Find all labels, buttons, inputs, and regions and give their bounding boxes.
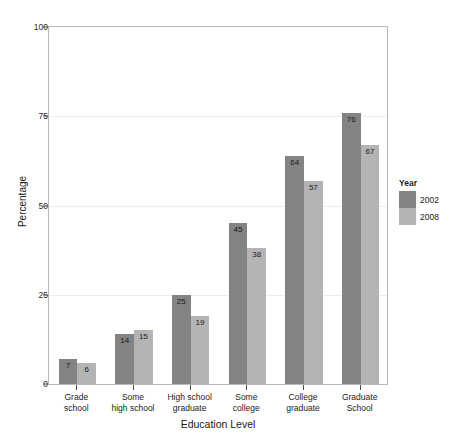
bar-group: 1415	[115, 27, 152, 384]
bar[interactable]: 38	[247, 248, 266, 384]
bar[interactable]: 6	[77, 363, 96, 384]
x-tick-label: High school graduate	[167, 392, 211, 413]
legend-title: Year	[399, 178, 455, 188]
bar-value-label: 57	[304, 183, 323, 193]
bar-value-label: 7	[59, 361, 78, 371]
bar-value-label: 15	[134, 332, 153, 342]
plot-panel: 7614152519453864577667	[48, 26, 388, 385]
legend-swatch	[399, 208, 416, 225]
x-tick-label: Some high school	[111, 392, 154, 413]
legend-item[interactable]: 2008	[399, 208, 455, 225]
legend-label: 2008	[420, 212, 439, 222]
bar[interactable]: 25	[172, 295, 191, 384]
bar-group: 6457	[285, 27, 322, 384]
legend-swatch	[399, 191, 416, 208]
bar[interactable]: 19	[191, 316, 210, 384]
y-tick-label: 100	[8, 22, 48, 32]
x-tick-label: College graduate	[286, 392, 320, 413]
legend-item[interactable]: 2002	[399, 191, 455, 208]
bar-value-label: 38	[247, 250, 266, 260]
bar[interactable]: 15	[134, 330, 153, 384]
bar[interactable]: 76	[342, 113, 361, 384]
x-tick-mark	[303, 385, 304, 390]
bar-group: 2519	[172, 27, 209, 384]
bar-value-label: 25	[172, 297, 191, 307]
bar-group: 7667	[342, 27, 379, 384]
legend-label: 2002	[420, 195, 439, 205]
y-tick-label: 0	[8, 379, 48, 389]
legend: Year 20022008	[399, 178, 455, 225]
bar-group: 4538	[229, 27, 266, 384]
x-tick-mark	[76, 385, 77, 390]
bar[interactable]: 7	[59, 359, 78, 384]
x-tick-mark	[190, 385, 191, 390]
x-tick-label: Grade school	[64, 392, 89, 413]
legend-items: 20022008	[399, 191, 455, 225]
bar-value-label: 67	[361, 147, 380, 157]
bar[interactable]: 67	[361, 145, 380, 384]
bar-group: 76	[59, 27, 96, 384]
bar-value-label: 76	[342, 115, 361, 125]
bar-value-label: 64	[285, 158, 304, 168]
y-tick-label: 25	[8, 290, 48, 300]
plot-area: 7614152519453864577667	[49, 27, 387, 384]
bar[interactable]: 45	[229, 223, 248, 384]
y-tick-label: 75	[8, 111, 48, 121]
bar[interactable]: 14	[115, 334, 134, 384]
y-axis: 0255075100	[0, 0, 48, 442]
bar-value-label: 14	[115, 336, 134, 346]
bar-value-label: 19	[191, 318, 210, 328]
x-tick-mark	[360, 385, 361, 390]
bar-value-label: 45	[229, 225, 248, 235]
bar[interactable]: 57	[304, 181, 323, 384]
x-tick-label: Graduate School	[342, 392, 377, 413]
bar-value-label: 6	[77, 365, 96, 375]
y-tick-label: 50	[8, 201, 48, 211]
bar-chart: Percentage 0255075100 761415251945386457…	[0, 0, 457, 442]
x-tick-label: Some college	[233, 392, 260, 413]
x-tick-mark	[133, 385, 134, 390]
bar[interactable]: 64	[285, 156, 304, 384]
x-axis-title: Education Level	[48, 418, 388, 430]
x-tick-mark	[246, 385, 247, 390]
